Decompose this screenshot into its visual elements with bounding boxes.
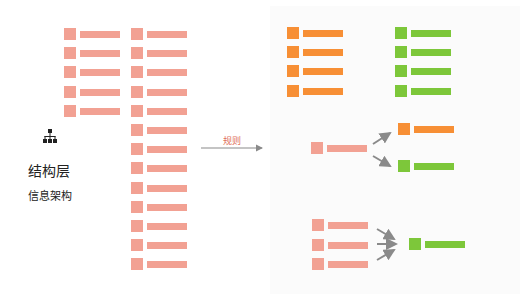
list-item-icon <box>395 27 407 39</box>
list-item-icon <box>131 86 143 98</box>
list-item-icon <box>311 142 323 154</box>
list-item-icon <box>395 46 407 58</box>
list-item-bar <box>147 69 187 76</box>
list-item-icon <box>64 47 76 59</box>
list-item-icon <box>64 105 76 117</box>
layer-title: 结构层 <box>28 160 70 180</box>
list-item-icon <box>409 238 421 250</box>
list-item-bar <box>303 30 343 37</box>
list-item-bar <box>328 261 368 268</box>
list-item-icon <box>312 258 324 270</box>
rule-label: 规则 <box>223 134 241 147</box>
list-item-icon <box>64 28 76 40</box>
list-item-bar <box>303 49 343 56</box>
layer-subtitle: 信息架构 <box>28 187 72 203</box>
list-item-icon <box>287 27 299 39</box>
list-item-icon <box>131 182 143 194</box>
list-item-icon <box>131 258 143 270</box>
list-item-icon <box>398 123 410 135</box>
list-item-icon <box>312 239 324 251</box>
list-item-bar <box>414 126 454 133</box>
list-item-bar <box>147 261 187 268</box>
list-item-bar <box>147 146 187 153</box>
list-item-icon <box>131 66 143 78</box>
list-item-bar <box>147 185 187 192</box>
list-item-icon <box>131 105 143 117</box>
list-item-icon <box>131 47 143 59</box>
list-item-icon <box>398 160 410 172</box>
list-item-bar <box>411 30 451 37</box>
list-item-bar <box>411 68 451 75</box>
list-item-icon <box>64 86 76 98</box>
list-item-icon <box>131 143 143 155</box>
list-item-bar <box>411 88 451 95</box>
list-item-bar <box>147 31 187 38</box>
list-item-bar <box>328 242 368 249</box>
list-item-bar <box>147 127 187 134</box>
list-item-icon <box>131 124 143 136</box>
list-item-bar <box>147 204 187 211</box>
list-item-icon <box>131 239 143 251</box>
list-item-icon <box>131 201 143 213</box>
list-item-icon <box>287 85 299 97</box>
list-item-bar <box>147 50 187 57</box>
list-item-bar <box>147 108 187 115</box>
list-item-icon <box>312 219 324 231</box>
list-item-bar <box>147 223 187 230</box>
list-item-bar <box>328 222 368 229</box>
list-item-bar <box>80 69 120 76</box>
list-item-bar <box>414 163 454 170</box>
list-item-bar <box>80 89 120 96</box>
list-item-bar <box>80 108 120 115</box>
list-item-bar <box>147 242 187 249</box>
list-item-icon <box>131 162 143 174</box>
list-item-icon <box>395 85 407 97</box>
list-item-icon <box>64 66 76 78</box>
list-item-bar <box>425 241 465 248</box>
list-item-bar <box>327 145 367 152</box>
sitemap-icon <box>42 128 58 144</box>
list-item-icon <box>131 220 143 232</box>
list-item-bar <box>147 89 187 96</box>
list-item-bar <box>80 31 120 38</box>
list-item-bar <box>303 88 343 95</box>
list-item-bar <box>80 50 120 57</box>
list-item-icon <box>287 46 299 58</box>
list-item-icon <box>287 65 299 77</box>
list-item-icon <box>395 65 407 77</box>
list-item-bar <box>147 165 187 172</box>
list-item-icon <box>131 28 143 40</box>
list-item-bar <box>411 49 451 56</box>
list-item-bar <box>303 68 343 75</box>
